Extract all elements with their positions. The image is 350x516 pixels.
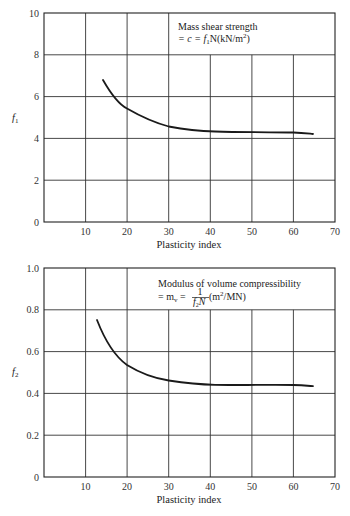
x-axis-ticks: 10 20 30 40 50 60 70 — [81, 226, 340, 237]
y-tick: 4 — [34, 133, 39, 144]
annotation-volume-compressibility: Modulus of volume compressibility = mv =… — [158, 278, 301, 308]
annotation-line-2-left: = mv = — [158, 291, 186, 304]
x-tick: 50 — [247, 481, 257, 492]
y-tick: 0 — [34, 217, 39, 228]
x-tick: 10 — [81, 481, 91, 492]
x-tick: 40 — [205, 481, 215, 492]
x-tick: 70 — [330, 481, 340, 492]
x-tick: 20 — [122, 226, 132, 237]
y-axis-ticks: 0 0.2 0.4 0.6 0.8 1.0 — [27, 263, 40, 483]
y-tick: 0 — [34, 472, 39, 483]
annotation-line-2: = c = f1N(kN/m2) — [178, 32, 250, 46]
x-tick: 30 — [164, 481, 174, 492]
y-tick: 1.0 — [27, 263, 40, 274]
fraction-denominator: f2N — [193, 296, 207, 308]
x-tick: 50 — [247, 226, 257, 237]
x-tick: 60 — [288, 481, 298, 492]
grid — [44, 13, 335, 222]
grid — [44, 268, 335, 477]
annotation-line-1: Modulus of volume compressibility — [158, 278, 301, 289]
x-tick: 60 — [288, 226, 298, 237]
plot-frame — [44, 268, 335, 477]
x-tick: 20 — [122, 481, 132, 492]
y-tick: 8 — [34, 49, 39, 60]
y-tick: 0.4 — [27, 388, 40, 399]
annotation-units: (m2/MN) — [209, 290, 246, 303]
x-tick: 10 — [81, 226, 91, 237]
x-tick: 70 — [330, 226, 340, 237]
x-axis-label: Plasticity index — [156, 494, 222, 505]
y-tick: 0.6 — [27, 346, 40, 357]
y-axis-ticks: 0 2 4 6 8 10 — [29, 8, 39, 228]
y-tick: 6 — [34, 91, 39, 102]
x-axis-label: Plasticity index — [156, 239, 222, 250]
series-f1-curve — [103, 80, 313, 134]
y-axis-label: f2 — [12, 366, 19, 379]
chart-f1: Mass shear strength = c = f1N(kN/m2) 0 2… — [12, 8, 340, 251]
series-f2-curve — [97, 320, 313, 386]
annotation-mass-shear-strength: Mass shear strength = c = f1N(kN/m2) — [178, 21, 257, 46]
y-tick: 0.2 — [27, 430, 40, 441]
chart-f2: Modulus of volume compressibility = mv =… — [12, 263, 340, 506]
figure: Mass shear strength = c = f1N(kN/m2) 0 2… — [0, 0, 350, 516]
annotation-line-1: Mass shear strength — [178, 21, 257, 32]
x-tick: 30 — [164, 226, 174, 237]
plot-frame — [44, 13, 335, 222]
y-axis-label: f1 — [12, 112, 19, 125]
x-axis-ticks: 10 20 30 40 50 60 70 — [81, 481, 340, 492]
x-tick: 40 — [205, 226, 215, 237]
y-tick: 2 — [34, 175, 39, 186]
y-tick: 10 — [29, 8, 39, 19]
y-tick: 0.8 — [27, 304, 40, 315]
